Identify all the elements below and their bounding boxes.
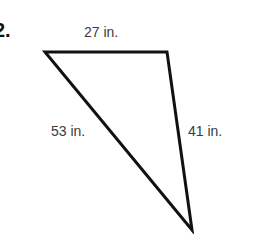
side-label-top: 27 in. bbox=[84, 25, 118, 39]
side-label-left: 53 in. bbox=[51, 124, 85, 138]
triangle-shape bbox=[45, 52, 192, 230]
side-label-right: 41 in. bbox=[188, 124, 222, 138]
triangle-figure bbox=[0, 0, 255, 234]
